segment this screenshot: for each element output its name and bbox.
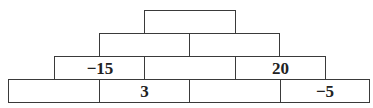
pyramid-cell-r4-c2: 3: [99, 79, 190, 103]
pyramid-cell-r1-c1: [144, 10, 236, 34]
pyramid-cell-r3-c3: 20: [235, 56, 326, 80]
pyramid-cell-r4-c1: [8, 79, 100, 103]
pyramid-cell-r3-c1: −15: [54, 56, 146, 80]
pyramid-cell-r2-c1: [99, 33, 190, 57]
pyramid-cell-r4-c4: −5: [280, 79, 370, 103]
pyramid-cell-r4-c3: [189, 79, 281, 103]
pyramid-cell-r2-c2: [189, 33, 280, 57]
pyramid-cell-r3-c2: [144, 56, 236, 80]
